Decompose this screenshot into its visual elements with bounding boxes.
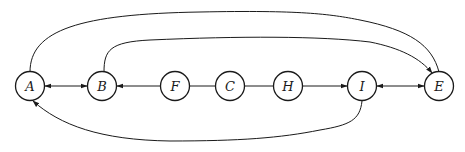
node-a-label: A [24,79,34,94]
node-a: A [16,72,45,101]
node-c-label: C [225,79,235,94]
graph-canvas: A B F C H I E [0,0,465,152]
node-b-label: B [96,79,107,94]
edge-i-a-arc [33,101,362,141]
edge-a-e-arc [30,11,439,72]
node-i-label: I [358,79,365,94]
node-i: I [348,72,377,101]
node-e-label: E [433,79,444,94]
edge-b-e-arc [104,37,432,73]
node-h: H [274,72,303,101]
node-f-label: F [169,79,180,94]
node-e: E [425,72,454,101]
node-c: C [216,72,245,101]
node-f: F [161,72,190,101]
node-b: B [88,72,117,101]
node-h-label: H [281,79,294,94]
